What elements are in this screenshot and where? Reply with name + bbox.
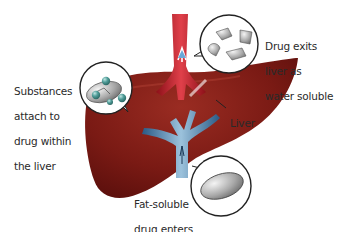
label-line: Fat-soluble <box>134 198 193 211</box>
label-drug-exits: Drug exits liver as water soluble <box>265 27 333 115</box>
label-line: liver as <box>265 65 333 78</box>
label-liver: Liver <box>230 104 255 142</box>
label-line: water soluble <box>265 90 333 103</box>
label-line: Substances <box>14 85 72 98</box>
label-fat-soluble-enters: Fat-soluble drug enters the liver <box>134 185 193 232</box>
bead-icon <box>107 99 113 105</box>
bead-icon <box>118 94 126 102</box>
bead-icon <box>92 91 100 99</box>
callout-fat-soluble <box>191 156 251 216</box>
bead-icon <box>102 77 110 85</box>
label-line: drug enters <box>134 223 193 233</box>
label-line: the liver <box>14 160 72 173</box>
fragment-icon <box>240 30 252 44</box>
label-substances-attach: Substances attach to drug within the liv… <box>14 72 72 185</box>
label-line: attach to <box>14 110 72 123</box>
label-line: Drug exits <box>265 40 333 53</box>
liver-diagram: Substances attach to drug within the liv… <box>0 0 350 232</box>
label-line: Liver <box>230 117 255 130</box>
callout-water-soluble <box>194 15 258 73</box>
callout-conjugation <box>80 62 132 114</box>
label-line: drug within <box>14 135 72 148</box>
